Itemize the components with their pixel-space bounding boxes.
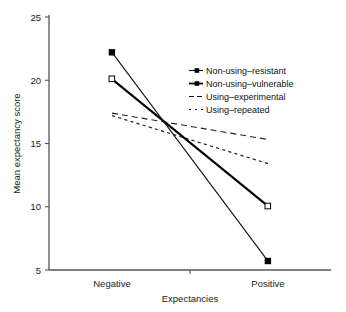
data-point-resistant-negative bbox=[109, 49, 115, 55]
data-point-vulnerable-positive bbox=[265, 203, 271, 209]
y-tick-label-25: 25 bbox=[30, 12, 41, 23]
legend-label-non-using-resistant: Non-using–resistant bbox=[206, 66, 287, 76]
legend-item-non-using-resistant[interactable]: Non-using–resistant bbox=[189, 66, 287, 76]
chart-legend: Non-using–resistant Non-using–vulnerable… bbox=[189, 66, 294, 115]
y-tick-label-15: 15 bbox=[30, 138, 41, 149]
legend-item-non-using-vulnerable[interactable]: Non-using–vulnerable bbox=[189, 79, 294, 89]
data-point-vulnerable-negative bbox=[109, 76, 115, 82]
legend-label-using-experimental: Using–experimental bbox=[206, 92, 286, 102]
line-chart-svg: 25 20 15 10 5 Negative Positive Mean exp… bbox=[0, 0, 346, 312]
legend-label-using-repeated: Using–repeated bbox=[206, 105, 270, 115]
data-point-resistant-positive bbox=[265, 258, 271, 264]
x-tick-label-negative: Negative bbox=[93, 278, 131, 289]
y-tick-label-10: 10 bbox=[30, 201, 41, 212]
x-tick-label-positive: Positive bbox=[251, 278, 284, 289]
legend-item-using-experimental[interactable]: Using–experimental bbox=[189, 92, 286, 102]
legend-label-non-using-vulnerable: Non-using–vulnerable bbox=[206, 79, 294, 89]
series-using-experimental bbox=[112, 113, 268, 139]
y-tick-group: 25 20 15 10 5 bbox=[30, 12, 49, 276]
chart-container: 25 20 15 10 5 Negative Positive Mean exp… bbox=[0, 0, 346, 312]
series-line-using-experimental bbox=[112, 113, 268, 139]
legend-item-using-repeated[interactable]: Using–repeated bbox=[189, 105, 270, 115]
x-axis-title: Expectancies bbox=[162, 293, 219, 304]
y-tick-label-20: 20 bbox=[30, 75, 41, 86]
y-tick-label-5: 5 bbox=[36, 265, 41, 276]
y-axis-title: Mean expectancy score bbox=[11, 93, 22, 193]
x-tick-group: Negative Positive bbox=[93, 270, 284, 289]
